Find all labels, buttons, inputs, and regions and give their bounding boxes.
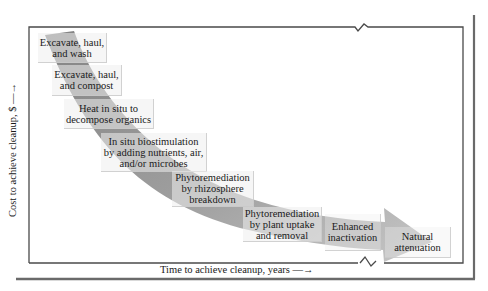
step-box-natural-attenuation: Natural attenuation	[385, 227, 451, 258]
cleanup-cost-time-diagram: Excavate, haul, and wash Excavate, haul,…	[0, 0, 488, 291]
step-label: by plant uptake	[250, 219, 315, 230]
step-label: breakdown	[189, 194, 236, 205]
step-label: Heat in situ to	[79, 103, 138, 114]
step-label: Enhanced	[332, 221, 373, 232]
step-box-plant-uptake: Phytoremediation by plant uptake and rem…	[243, 207, 322, 242]
y-axis-label: Cost to achieve cleanup, $ —→	[7, 83, 18, 217]
x-axis-label: Time to achieve cleanup, years —→	[160, 264, 314, 275]
step-label: and removal	[256, 230, 308, 241]
step-box-rhizosphere: Phytoremediation by rhizosphere breakdow…	[172, 171, 254, 207]
step-label: Phytoremediation	[245, 208, 320, 219]
step-box-excavate-compost: Excavate, haul, and compost	[52, 65, 122, 96]
step-box-enhanced-inactivation: Enhanced inactivation	[325, 214, 381, 251]
step-label: In situ biostimulation	[109, 136, 199, 147]
step-label: inactivation	[328, 232, 378, 243]
step-label: Excavate, haul,	[40, 37, 104, 48]
step-label: Natural	[402, 231, 434, 242]
step-box-heat-in-situ: Heat in situ to decompose organics	[64, 99, 154, 129]
step-label: Excavate, haul,	[54, 69, 118, 80]
step-label: and/or microbes	[120, 158, 188, 169]
step-label: Phytoremediation	[175, 172, 250, 183]
step-label: decompose organics	[66, 114, 151, 125]
step-label: by rhizosphere	[181, 183, 243, 194]
step-box-excavate-wash: Excavate, haul, and wash	[38, 33, 107, 63]
step-label: by adding nutrients, air,	[104, 147, 204, 158]
step-label: and wash	[52, 48, 91, 59]
step-box-biostimulation: In situ biostimulation by adding nutrien…	[101, 133, 207, 172]
step-label: attenuation	[394, 242, 441, 253]
step-label: and compost	[60, 80, 113, 91]
